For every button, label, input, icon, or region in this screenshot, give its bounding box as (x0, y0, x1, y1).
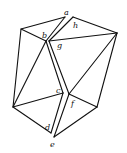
label-g: g (57, 41, 62, 50)
label-h: h (73, 21, 78, 30)
edge-bottomright-e (54, 107, 97, 137)
edge-g-right (49, 33, 117, 41)
label-d: d (45, 123, 50, 132)
label-e: e (50, 140, 55, 149)
left-piece (13, 17, 65, 133)
edge-top-right (73, 17, 117, 33)
edge-right-f (69, 33, 117, 94)
dissected-polyhedron-diagram: a b g h c f d e (0, 0, 127, 153)
label-b: b (42, 31, 47, 40)
edge-b-leftbottom (13, 41, 46, 107)
edge-leftbottom-c (13, 93, 63, 107)
label-c: c (56, 86, 61, 95)
right-piece (49, 17, 117, 137)
diagram-svg: a b g h c f d e (0, 0, 127, 153)
edge-right-bottomright (97, 33, 117, 107)
label-f: f (70, 99, 76, 108)
label-a: a (64, 8, 69, 17)
edge-a-b (46, 17, 65, 41)
